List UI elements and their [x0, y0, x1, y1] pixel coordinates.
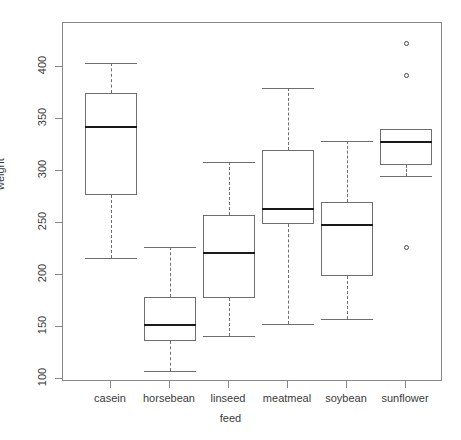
- y-tick-mark: [55, 326, 62, 327]
- x-tick-mark: [405, 381, 406, 388]
- median-line: [380, 141, 432, 143]
- y-tick-mark: [55, 118, 62, 119]
- outlier-point: [404, 73, 409, 78]
- x-tick-label-linseed: linseed: [211, 392, 246, 404]
- y-tick-label: 200: [36, 258, 48, 288]
- x-tick-label-meatmeal: meatmeal: [263, 392, 311, 404]
- y-tick-label: 400: [36, 50, 48, 80]
- y-tick-mark: [55, 378, 62, 379]
- y-tick-mark: [55, 66, 62, 67]
- x-tick-mark: [346, 381, 347, 388]
- y-tick-mark: [55, 274, 62, 275]
- x-tick-mark: [228, 381, 229, 388]
- x-tick-label-casein: casein: [94, 392, 126, 404]
- outlier-point: [404, 245, 409, 250]
- whisker-lower: [406, 165, 407, 176]
- y-tick-mark: [55, 222, 62, 223]
- y-axis-title: weight: [0, 158, 6, 190]
- plot-area: [62, 22, 442, 381]
- x-tick-mark: [287, 381, 288, 388]
- box-iqr: [380, 129, 432, 164]
- boxplot-sunflower: [63, 23, 441, 380]
- y-tick-mark: [55, 170, 62, 171]
- x-tick-label-sunflower: sunflower: [381, 392, 428, 404]
- y-tick-label: 150: [36, 310, 48, 340]
- whisker-cap-lower: [380, 176, 432, 177]
- y-tick-label: 100: [36, 362, 48, 392]
- x-tick-label-soybean: soybean: [325, 392, 367, 404]
- y-tick-label: 300: [36, 154, 48, 184]
- boxes-layer: [63, 23, 441, 380]
- y-tick-label: 350: [36, 102, 48, 132]
- x-tick-label-horsebean: horsebean: [143, 392, 195, 404]
- y-tick-label: 250: [36, 206, 48, 236]
- x-axis-title: feed: [0, 412, 461, 424]
- outlier-point: [404, 41, 409, 46]
- x-tick-mark: [110, 381, 111, 388]
- boxplot-screenshot: weight 100150200250300350400 caseinhorse…: [0, 0, 461, 440]
- x-tick-mark: [169, 381, 170, 388]
